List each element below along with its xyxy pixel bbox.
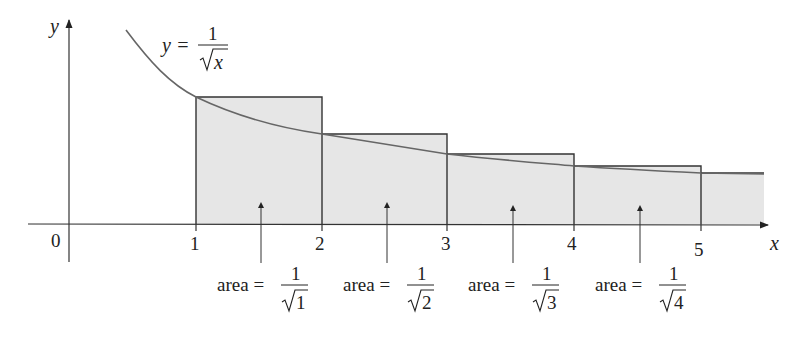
curve-label: y = 1 x [160,23,228,73]
svg-text:y =: y = [160,34,189,57]
svg-text:2: 2 [422,292,432,313]
area-label-1: area = 1 1 [217,263,308,313]
svg-text:1: 1 [417,263,427,284]
svg-text:area =: area = [343,274,390,295]
svg-text:3: 3 [547,292,557,313]
y-axis-label: y [48,15,59,38]
x-axis-label: x [769,232,779,254]
x-tick-1: 1 [190,233,200,254]
x-tick-4: 4 [567,233,577,254]
svg-text:4: 4 [674,292,684,313]
origin-label: 0 [51,230,61,251]
svg-text:1: 1 [291,263,301,284]
svg-text:1: 1 [542,263,552,284]
area-label-2: area = 1 2 [343,263,434,313]
svg-text:area =: area = [217,274,264,295]
area-label-4: area = 1 4 [595,263,686,313]
svg-text:1: 1 [296,292,306,313]
svg-text:x: x [213,51,223,73]
area-under-curve [196,97,764,224]
x-tick-2: 2 [315,233,325,254]
svg-text:area =: area = [595,274,642,295]
svg-text:1: 1 [208,23,218,44]
area-label-3: area = 1 3 [468,263,559,313]
x-axis [28,224,768,225]
diagram: y x 0 1 2 3 4 5 y = 1 x area = 1 1 area … [0,0,793,343]
svg-text:1: 1 [669,263,679,284]
x-tick-5: 5 [694,239,704,260]
svg-text:area =: area = [468,274,515,295]
x-tick-3: 3 [441,233,451,254]
